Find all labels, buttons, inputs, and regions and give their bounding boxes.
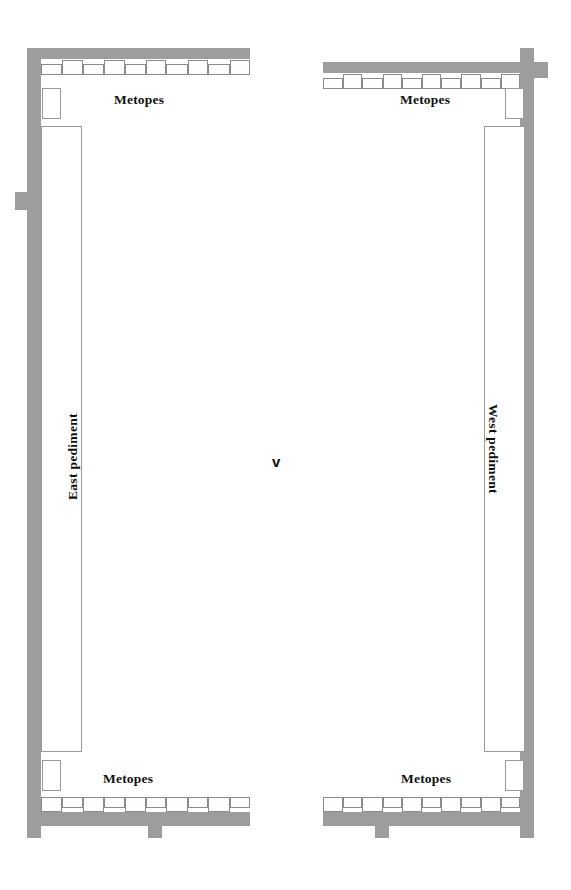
frieze-block [383, 797, 402, 808]
east-top-entablature-band [41, 48, 250, 59]
frieze-block [362, 797, 382, 812]
frieze-block [166, 797, 187, 812]
east-wall-side-tab [15, 192, 27, 210]
frieze-block [62, 60, 82, 75]
frieze-block [188, 60, 208, 75]
frieze-block [62, 797, 82, 808]
frieze-block [383, 74, 402, 89]
west-bottom-tab-mid [375, 826, 389, 838]
frieze-block [104, 60, 124, 75]
label-metopes-bottom-right: Metopes [401, 771, 451, 787]
frieze-block [41, 64, 62, 75]
frieze-block [441, 78, 461, 89]
center-marker-v: v [272, 453, 280, 470]
east-bottom-small-chamber [42, 760, 61, 791]
frieze-block [501, 74, 520, 89]
frieze-block [323, 797, 343, 812]
temple-plan-figure: Metopes Metopes East pediment [0, 0, 571, 890]
frieze-block [230, 797, 250, 808]
frieze-block [441, 797, 461, 812]
frieze-block [125, 64, 146, 75]
west-top-entablature-band [323, 62, 520, 73]
frieze-block [146, 797, 166, 808]
frieze-block [125, 797, 146, 812]
label-west-pediment: West pediment [485, 404, 501, 494]
label-metopes-top-right: Metopes [400, 92, 450, 108]
frieze-block [461, 797, 480, 808]
frieze-block [501, 797, 520, 808]
west-bottom-entablature-band [323, 812, 534, 826]
frieze-block [83, 64, 104, 75]
frieze-block [166, 64, 187, 75]
west-bottom-frieze-run [323, 796, 520, 812]
label-east-pediment: East pediment [65, 413, 81, 500]
west-top-frieze-run [323, 74, 520, 92]
frieze-block [208, 797, 229, 812]
frieze-block [481, 797, 501, 812]
frieze-block [422, 797, 441, 808]
east-bottom-tab-left [27, 826, 41, 838]
frieze-block [230, 60, 250, 75]
frieze-block [402, 797, 422, 812]
frieze-block [146, 60, 166, 75]
label-metopes-bottom-left: Metopes [103, 771, 153, 787]
frieze-block [422, 74, 441, 89]
east-top-frieze-run [41, 60, 250, 78]
frieze-block [343, 74, 362, 89]
east-outer-wall-vertical [27, 48, 41, 838]
frieze-block [343, 797, 362, 808]
frieze-block [323, 78, 343, 89]
frieze-block [104, 797, 124, 808]
west-bottom-small-chamber [505, 760, 524, 791]
frieze-block [83, 797, 104, 812]
east-bottom-tab-mid [148, 826, 162, 838]
west-top-small-chamber [505, 88, 524, 119]
east-bottom-entablature-band [27, 812, 250, 826]
label-metopes-top-left: Metopes [114, 92, 164, 108]
east-top-small-chamber [42, 88, 61, 119]
frieze-block [188, 797, 208, 808]
west-wall-side-tab [534, 62, 548, 78]
east-bottom-frieze-run [41, 796, 250, 812]
west-bottom-tab-right [520, 826, 534, 838]
frieze-block [481, 78, 501, 89]
frieze-block [461, 74, 480, 89]
frieze-block [402, 78, 422, 89]
frieze-block [41, 797, 62, 812]
frieze-block [362, 78, 382, 89]
frieze-block [208, 64, 229, 75]
